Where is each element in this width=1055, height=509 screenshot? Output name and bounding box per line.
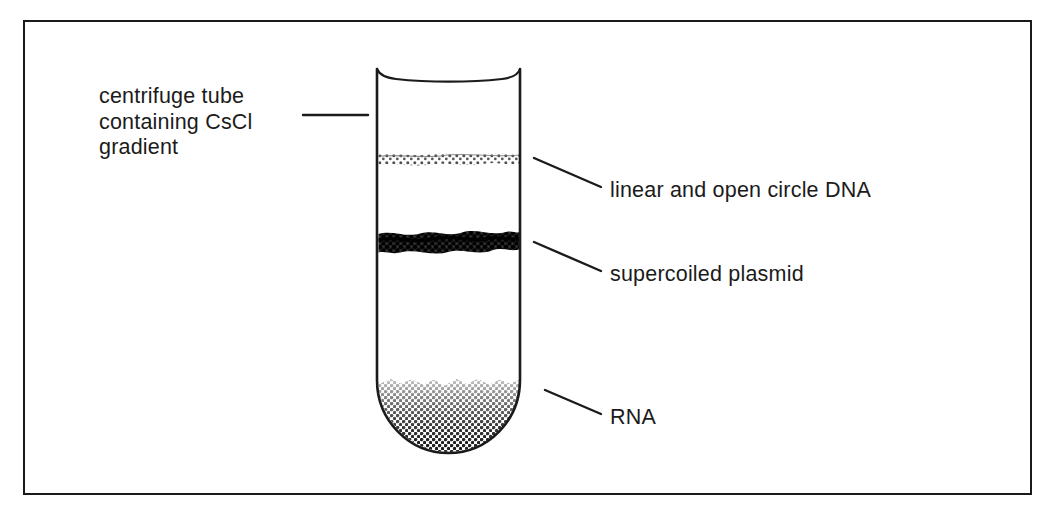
label-linear-open-circle-dna: linear and open circle DNA [610, 178, 871, 204]
label-rna: RNA [610, 405, 656, 431]
figure-root: centrifuge tubecontaining CsClgradient l… [0, 0, 1055, 509]
label-centrifuge-tube-line1: centrifuge tube [99, 84, 244, 108]
label-centrifuge-tube: centrifuge tubecontaining CsClgradient [99, 84, 253, 161]
label-centrifuge-tube-line2: containing CsCl [99, 110, 253, 134]
label-centrifuge-tube-line3: gradient [99, 135, 178, 159]
label-supercoiled-plasmid: supercoiled plasmid [610, 262, 804, 288]
